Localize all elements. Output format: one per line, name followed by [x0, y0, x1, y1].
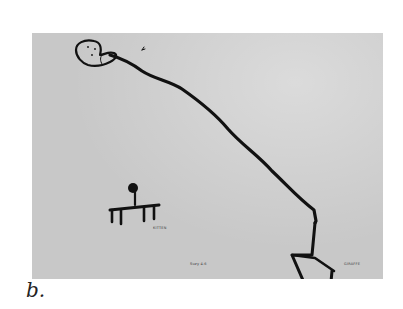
- figure-caption: b.: [26, 278, 45, 302]
- child-drawing-illustration: [32, 33, 383, 279]
- giraffe-head: [76, 40, 116, 65]
- drawing-photo: KITTEN Suzy 4-6 GIRAFFE: [32, 33, 383, 279]
- kitten-label: KITTEN: [153, 226, 167, 230]
- kitten-head: [128, 183, 138, 193]
- signature-label: Suzy 4-6: [190, 262, 207, 266]
- giraffe-label: GIRAFFE: [344, 262, 360, 266]
- giraffe-front-leg: [292, 223, 315, 279]
- giraffe-back-leg: [330, 271, 336, 279]
- giraffe-neck: [110, 55, 316, 223]
